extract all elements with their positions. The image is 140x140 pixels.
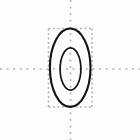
figure-svg bbox=[0, 0, 140, 140]
ellipse-figure-canvas bbox=[0, 0, 140, 140]
